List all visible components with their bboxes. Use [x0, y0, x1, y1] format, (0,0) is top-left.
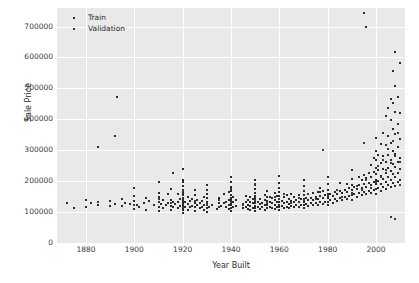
data-point [351, 192, 353, 194]
data-point [206, 211, 208, 213]
data-point [399, 157, 401, 159]
data-point [208, 206, 210, 208]
data-point [266, 207, 268, 209]
data-point [327, 204, 329, 206]
data-point [380, 183, 382, 185]
data-point [370, 164, 372, 166]
data-point [278, 175, 280, 177]
data-point [158, 198, 160, 200]
data-point [249, 209, 251, 211]
gridline-horizontal [57, 212, 405, 213]
data-point [182, 206, 184, 208]
data-point [351, 169, 353, 171]
data-point [172, 201, 174, 203]
data-point [387, 135, 389, 137]
data-point [254, 179, 256, 181]
x-axis-tick-label: 1980 [308, 246, 348, 254]
data-point [97, 201, 99, 203]
data-point [397, 123, 399, 125]
data-point [245, 195, 247, 197]
data-point [377, 180, 379, 182]
data-point [254, 188, 256, 190]
data-point [317, 198, 319, 200]
data-point [194, 189, 196, 191]
data-point [382, 159, 384, 161]
data-point [341, 199, 343, 201]
data-point [390, 170, 392, 172]
data-point [392, 102, 394, 104]
legend-marker-train-icon [73, 17, 75, 19]
gridline-horizontal [57, 119, 405, 120]
y-axis-tick-label: 200000 [1, 177, 53, 185]
legend-label-train: Train [88, 13, 106, 22]
data-point [394, 85, 396, 87]
data-point [327, 183, 329, 185]
data-point [245, 201, 247, 203]
gridline-vertical [376, 8, 377, 243]
data-point [187, 209, 189, 211]
data-point [303, 194, 305, 196]
data-point [322, 149, 324, 151]
data-point [143, 202, 145, 204]
data-point [158, 210, 160, 212]
data-point [385, 161, 387, 163]
data-point [165, 204, 167, 206]
data-point [133, 187, 135, 189]
data-point [387, 167, 389, 169]
data-point [278, 187, 280, 189]
gridline-horizontal [57, 150, 405, 151]
data-point [278, 198, 280, 200]
data-point [194, 210, 196, 212]
data-point [390, 186, 392, 188]
data-point [356, 188, 358, 190]
data-point [170, 202, 172, 204]
data-point [307, 205, 309, 207]
x-axis-tick-label: 1920 [163, 246, 203, 254]
data-point [392, 163, 394, 165]
x-axis-label: Year Built [57, 261, 405, 270]
data-point [390, 98, 392, 100]
data-point [327, 195, 329, 197]
data-point [177, 201, 179, 203]
data-point [254, 207, 256, 209]
data-point [358, 176, 360, 178]
data-point [399, 62, 401, 64]
x-axis-tick-label: 2000 [356, 246, 396, 254]
data-point [392, 140, 394, 142]
data-point [170, 188, 172, 190]
data-point [385, 115, 387, 117]
data-point [182, 185, 184, 187]
data-point [397, 172, 399, 174]
data-point [177, 207, 179, 209]
data-point [266, 202, 268, 204]
data-point [158, 192, 160, 194]
data-point [73, 207, 75, 209]
data-point [336, 189, 338, 191]
data-point [298, 206, 300, 208]
data-point [90, 202, 92, 204]
data-point [392, 182, 394, 184]
data-point [390, 159, 392, 161]
data-point [283, 196, 285, 198]
data-point [230, 181, 232, 183]
data-point [182, 168, 184, 170]
data-point [124, 202, 126, 204]
data-point [182, 209, 184, 211]
data-point [184, 206, 186, 208]
data-point [109, 205, 111, 207]
data-point [322, 197, 324, 199]
data-point [399, 112, 401, 114]
data-point [85, 199, 87, 201]
data-point [254, 192, 256, 194]
data-point [230, 190, 232, 192]
y-axis-tick-label: 300000 [1, 146, 53, 154]
data-point [377, 165, 379, 167]
data-point [385, 188, 387, 190]
data-point [114, 135, 116, 137]
data-point [283, 193, 285, 195]
data-point [230, 201, 232, 203]
data-point [145, 197, 147, 199]
data-point [394, 51, 396, 53]
data-point [394, 111, 396, 113]
data-point [370, 184, 372, 186]
